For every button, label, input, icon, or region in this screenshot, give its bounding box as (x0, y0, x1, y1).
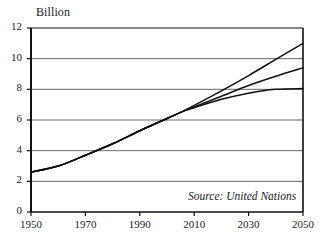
y-tick-label: 2 (0, 173, 22, 185)
y-axis-unit-label: Billion (36, 5, 70, 20)
chart-canvas (0, 0, 323, 244)
x-tick-label: 2030 (229, 218, 269, 230)
source-note: Source: United Nations (188, 190, 296, 202)
series-line-high-variant (31, 43, 303, 172)
x-tick-label: 2050 (283, 218, 323, 230)
y-tick-label: 8 (0, 81, 22, 93)
series-line-low-variant (31, 89, 303, 173)
x-tick-label: 1990 (120, 218, 160, 230)
y-tick-label: 10 (0, 51, 22, 63)
gridlines (31, 59, 303, 182)
x-tick-label: 1950 (11, 218, 51, 230)
data-lines (31, 43, 303, 172)
axis-ticks (27, 28, 303, 216)
y-tick-label: 6 (0, 112, 22, 124)
y-tick-label: 4 (0, 143, 22, 155)
population-projection-chart: Billion Source: United Nations 024681012… (0, 0, 323, 244)
x-tick-label: 1970 (65, 218, 105, 230)
y-tick-label: 12 (0, 20, 22, 32)
y-tick-label: 0 (0, 204, 22, 216)
x-tick-label: 2010 (174, 218, 214, 230)
